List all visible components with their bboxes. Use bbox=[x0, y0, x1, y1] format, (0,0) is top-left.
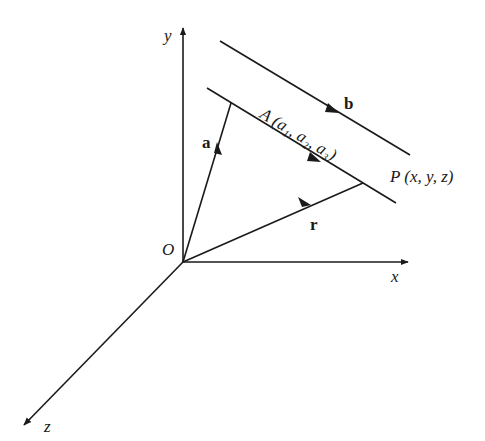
vector-a bbox=[183, 103, 231, 262]
y-axis-label: y bbox=[164, 27, 172, 44]
point-p-label: P (x, y, z) bbox=[390, 168, 453, 185]
vector-r bbox=[183, 183, 363, 262]
vector-r-label: r bbox=[310, 216, 318, 233]
z-axis bbox=[24, 262, 183, 425]
z-axis-label: z bbox=[44, 418, 51, 435]
vector-line-diagram bbox=[0, 0, 485, 441]
point-p-coords: (x, y, z) bbox=[404, 167, 453, 186]
vector-a-label: a bbox=[202, 134, 211, 151]
x-axis-label: x bbox=[391, 268, 399, 285]
vector-b-label: b bbox=[344, 95, 353, 112]
point-p-name: P bbox=[390, 167, 400, 186]
r-arrow-icon bbox=[298, 197, 311, 207]
origin-label: O bbox=[162, 241, 174, 258]
